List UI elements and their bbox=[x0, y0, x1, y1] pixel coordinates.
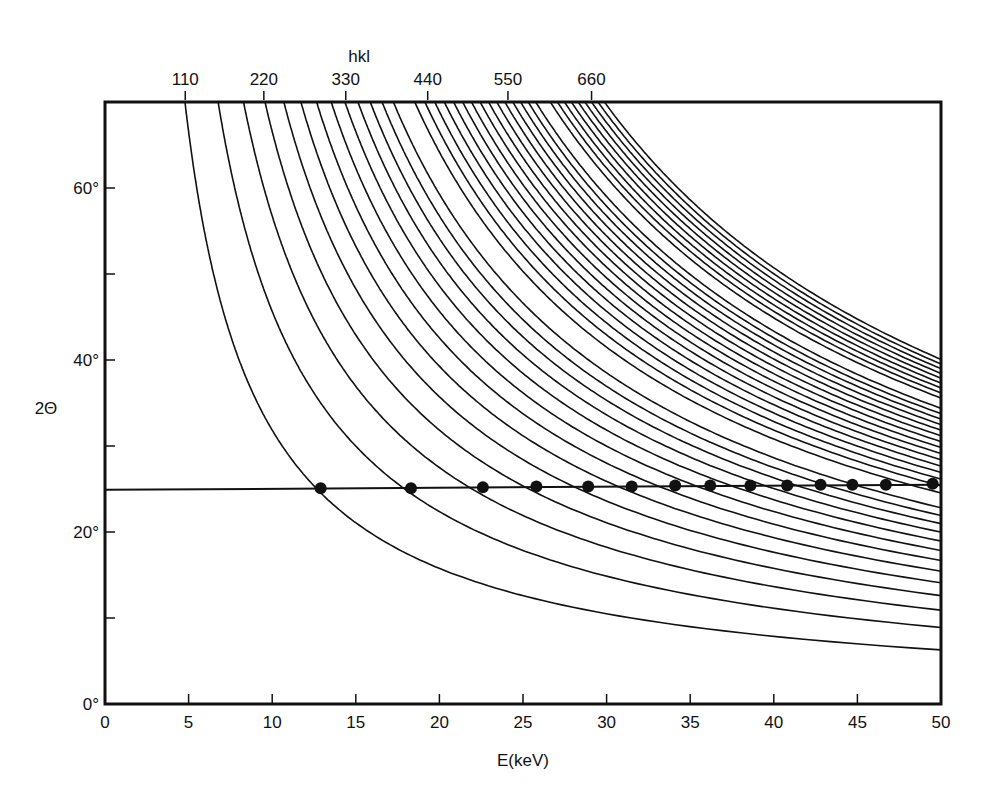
intersection-dot bbox=[744, 480, 756, 492]
x-tick-label: 35 bbox=[681, 713, 700, 732]
bragg-curve bbox=[518, 98, 970, 429]
y-tick-label: 0° bbox=[83, 695, 99, 714]
bragg-curve bbox=[380, 98, 967, 522]
y-axis-title: 2Θ bbox=[35, 399, 58, 418]
top-hkl-axis: 110220330440550660 bbox=[172, 70, 606, 100]
x-tick-label: 15 bbox=[346, 713, 365, 732]
intersection-dot bbox=[846, 479, 858, 491]
hkl-tick-label: 220 bbox=[250, 70, 278, 89]
x-tick-label: 45 bbox=[848, 713, 867, 732]
x-tick-label: 30 bbox=[597, 713, 616, 732]
intersection-dot bbox=[477, 481, 489, 493]
bragg-energy-angle-chart: 05101520253035404550 0°20°40°60° 1102203… bbox=[0, 0, 991, 805]
bragg-curve bbox=[369, 98, 971, 530]
x-tick-label: 5 bbox=[184, 713, 193, 732]
intersection-dot bbox=[405, 482, 417, 494]
bragg-curves bbox=[185, 98, 975, 651]
intersection-dot bbox=[669, 480, 681, 492]
bragg-curve bbox=[243, 98, 974, 614]
bragg-curve bbox=[392, 98, 972, 515]
x-tick-label: 40 bbox=[764, 713, 783, 732]
bragg-curve bbox=[548, 98, 973, 410]
intersection-dot bbox=[880, 479, 892, 491]
y-tick-label: 40° bbox=[73, 351, 99, 370]
intersection-dot bbox=[315, 482, 327, 494]
y-tick-label: 20° bbox=[73, 523, 99, 542]
y-axis: 0°20°40°60° bbox=[73, 179, 115, 714]
x-tick-label: 50 bbox=[932, 713, 951, 732]
bragg-curve bbox=[589, 98, 974, 382]
bragg-curve bbox=[510, 98, 973, 436]
intersection-dot bbox=[530, 480, 542, 492]
x-tick-label: 25 bbox=[514, 713, 533, 732]
bragg-curve bbox=[185, 98, 947, 651]
bragg-curve bbox=[601, 98, 974, 373]
x-tick-label: 20 bbox=[430, 713, 449, 732]
hkl-tick-label: 330 bbox=[332, 70, 360, 89]
hkl-tick-label: 550 bbox=[494, 70, 522, 89]
intersection-dot bbox=[626, 480, 638, 492]
intersection-dot bbox=[781, 480, 793, 492]
y-tick-label: 60° bbox=[73, 179, 99, 198]
bragg-curve bbox=[555, 98, 974, 405]
intersection-dot bbox=[704, 480, 716, 492]
hkl-tick-label: 440 bbox=[414, 70, 442, 89]
top-axis-title: hkl bbox=[348, 47, 370, 66]
bragg-curve bbox=[343, 98, 972, 547]
x-tick-label: 0 bbox=[100, 713, 109, 732]
hkl-tick-label: 660 bbox=[577, 70, 605, 89]
x-axis: 05101520253035404550 bbox=[100, 694, 950, 732]
hkl-tick-label: 110 bbox=[172, 70, 199, 89]
intersection-dot bbox=[582, 480, 594, 492]
bragg-curve bbox=[582, 98, 973, 386]
x-axis-title: E(keV) bbox=[497, 751, 549, 770]
bragg-curve bbox=[356, 98, 972, 539]
intersection-dot bbox=[927, 478, 939, 490]
bragg-curve bbox=[217, 98, 955, 629]
intersection-dot bbox=[815, 479, 827, 491]
x-tick-label: 10 bbox=[263, 713, 282, 732]
